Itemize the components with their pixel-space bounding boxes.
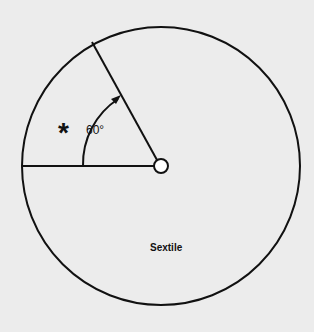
- angle-label: 60°: [86, 123, 104, 137]
- diagram-title: Sextile: [150, 242, 183, 253]
- angled-radius: [92, 42, 157, 160]
- sextile-diagram: 60° * Sextile: [0, 0, 314, 332]
- aspect-symbol-icon: *: [58, 117, 69, 148]
- center-point: [154, 159, 168, 173]
